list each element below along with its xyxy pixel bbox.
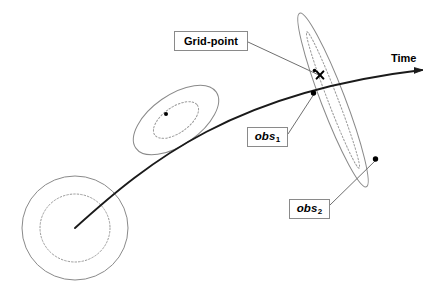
obs2-label-box: obs2 xyxy=(289,199,330,219)
state-trajectory-group xyxy=(75,68,423,229)
analysis-ellipse-outer xyxy=(288,9,377,191)
grid-point-label-box: Grid-point xyxy=(174,31,248,51)
obs1-label-text: obs1 xyxy=(255,131,281,144)
mid-state-point-marker xyxy=(164,112,168,116)
obs1-label-subscript: 1 xyxy=(276,135,281,144)
obs1-label-base: obs xyxy=(255,130,276,142)
obs2-point-marker xyxy=(373,156,378,161)
grid-point-marker xyxy=(317,71,324,78)
obs1-leader-line xyxy=(288,94,314,134)
obs1-label-box: obs1 xyxy=(247,127,288,147)
grid-point-label-text: Grid-point xyxy=(184,36,238,47)
obs2-label-subscript: 2 xyxy=(318,207,323,216)
mid-uncertainty-ellipse xyxy=(122,71,231,168)
analysis-uncertainty-ellipse xyxy=(288,9,377,191)
time-axis-arrowhead xyxy=(414,68,423,74)
state-trajectory-curve xyxy=(75,70,422,228)
diagram-canvas: Grid-point obs1 obs2 Time xyxy=(0,0,437,301)
obs1-point-marker xyxy=(311,90,316,95)
obs2-label-text: obs2 xyxy=(297,203,323,216)
obs2-label-base: obs xyxy=(297,202,318,214)
leader-line-group xyxy=(248,42,376,205)
obs2-leader-line xyxy=(330,160,376,205)
grid-point-neighbour-dot xyxy=(313,69,317,73)
grid-point-leader-line xyxy=(248,42,321,76)
analysis-ellipse-inner xyxy=(302,30,364,170)
mid-ellipse-outer xyxy=(122,71,231,168)
time-axis-label: Time xyxy=(391,52,416,64)
